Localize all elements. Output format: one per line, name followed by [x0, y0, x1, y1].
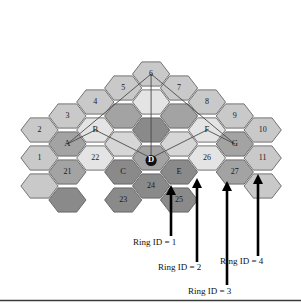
hex-label-d: D: [148, 154, 154, 164]
hex-label-5: 5: [121, 83, 125, 92]
hex-label-21: 21: [63, 167, 71, 176]
hex-label-7: 7: [177, 83, 181, 92]
hex-label-9: 9: [233, 111, 237, 120]
hex-label-3: 3: [65, 111, 69, 120]
hex-label-11: 11: [259, 153, 267, 162]
hex-label-e: E: [176, 166, 181, 176]
hex-label-23: 23: [119, 195, 127, 204]
hex-label-1: 1: [38, 153, 42, 162]
hex-label-2: 2: [38, 125, 42, 134]
hex-label-25: 25: [175, 195, 183, 204]
arrow4-label: Ring ID = 4: [220, 256, 264, 266]
hex-label-6: 6: [149, 69, 153, 78]
hex-label-10: 10: [259, 125, 267, 134]
hex-label-f: F: [205, 124, 210, 134]
hex-label-b: B: [92, 124, 98, 134]
hex-label-8: 8: [205, 97, 209, 106]
arrow2-label: Ring ID = 2: [158, 262, 201, 272]
hex-label-4: 4: [93, 97, 97, 106]
hex-label-27: 27: [231, 167, 239, 176]
hex-label-c: C: [120, 166, 126, 176]
figure-canvas: 213A214B225C236D247E258F269G271011 Ring …: [0, 0, 301, 303]
hex-label-26: 26: [203, 153, 211, 162]
hex-label-24: 24: [147, 181, 155, 190]
hex-label-g: G: [232, 138, 238, 148]
arrow1-label: Ring ID = 1: [133, 237, 176, 247]
hex-label-22: 22: [91, 153, 99, 162]
arrow3-label: Ring ID = 3: [188, 286, 232, 296]
hex-label-a: A: [64, 138, 71, 148]
hex-cluster-diagram: 213A214B225C236D247E258F269G271011 Ring …: [0, 0, 301, 303]
